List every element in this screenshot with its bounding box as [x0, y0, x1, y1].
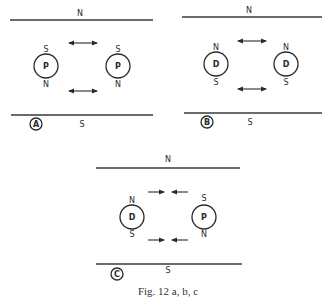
- panel-a-top-pole-label: N: [77, 9, 83, 18]
- panel-b-top-pole-label: N: [246, 6, 252, 15]
- panel-a-body1-bottom-pole: N: [43, 80, 49, 89]
- panel-a-label: A: [33, 120, 40, 129]
- panel-c-bottom-pole-label: S: [165, 266, 170, 275]
- panel-a-body1-top-pole: S: [43, 45, 48, 54]
- panel-b-body1-top-pole: N: [213, 43, 219, 52]
- figure-caption: Fig. 12 a, b, c: [138, 285, 198, 297]
- panel-c: N N D S S P N C S: [96, 155, 242, 280]
- panel-c-body1-top-pole: N: [129, 196, 135, 205]
- panel-c-body2-type: P: [201, 213, 207, 222]
- panel-b-body2-top-pole: N: [283, 43, 289, 52]
- panel-c-body1-bottom-pole: S: [129, 230, 134, 239]
- panel-b-body1-bottom-pole: S: [213, 78, 218, 87]
- panel-b-body2-type: D: [283, 60, 290, 69]
- panel-c-label: C: [114, 270, 120, 279]
- figure-12-diagram: N S P N S P N A S N N D S N D S B S N: [0, 0, 331, 307]
- panel-a-bottom-pole-label: S: [79, 120, 84, 129]
- panel-b-body2-bottom-pole: S: [283, 78, 288, 87]
- panel-a-body1-type: P: [43, 62, 49, 71]
- panel-b-label: B: [204, 118, 210, 127]
- panel-c-body2-bottom-pole: N: [201, 230, 207, 239]
- panel-a-body2-type: P: [115, 62, 121, 71]
- panel-c-top-pole-label: N: [165, 155, 171, 164]
- panel-b-bottom-pole-label: S: [247, 118, 252, 127]
- panel-a-body2-bottom-pole: N: [115, 80, 121, 89]
- panel-a: N S P N S P N A S: [10, 9, 153, 130]
- panel-b: N N D S N D S B S: [182, 6, 322, 128]
- panel-b-body1-type: D: [213, 60, 220, 69]
- panel-c-body1-type: D: [129, 213, 136, 222]
- panel-a-body2-top-pole: S: [115, 45, 120, 54]
- panel-c-body2-top-pole: S: [201, 194, 206, 203]
